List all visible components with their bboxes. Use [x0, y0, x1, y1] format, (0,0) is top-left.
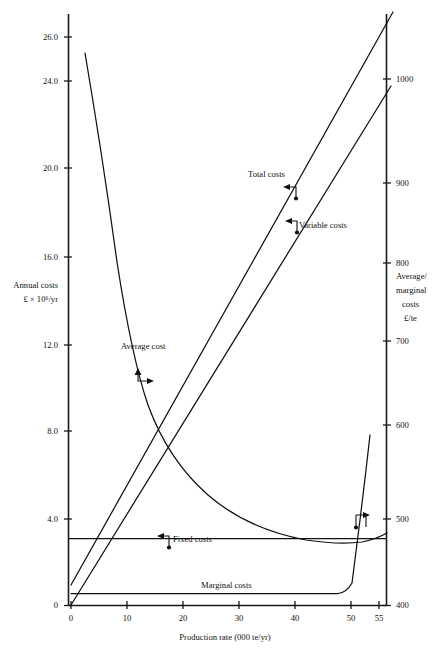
x-tick-label-55: 55 — [375, 613, 384, 623]
annotation-arrowhead-variable-costs — [285, 218, 292, 224]
annotation-endpoint-total-costs — [294, 196, 298, 200]
annotation-label-average-cost: Average cost — [121, 341, 166, 351]
series-line-total-costs — [71, 12, 393, 585]
series-line-average-cost — [85, 53, 387, 543]
x-axis-title: Production rate (000 te/yr) — [179, 632, 271, 642]
annotation-total-costs: Total costs — [248, 169, 298, 201]
annotation-endpoint-fixed-costs — [167, 545, 171, 549]
left-axis-title: Annual costs £ × 10⁶/yr — [13, 280, 58, 304]
right-axis-title-line4: £/te — [404, 313, 417, 323]
annotation-marginal-spike-pointer — [354, 512, 370, 530]
annotation-variable-costs: Variable costs — [285, 218, 348, 235]
right-tick-label-900: 900 — [396, 178, 409, 188]
annotation-label-marginal-costs: Marginal costs — [201, 580, 252, 590]
annotation-average-cost: Average cost — [121, 341, 166, 384]
bottom-axis-ticks: 0 10 20 30 40 50 55 — [69, 601, 383, 623]
x-tick-label-30: 30 — [235, 613, 244, 623]
right-tick-label-500: 500 — [396, 514, 409, 524]
right-axis-title-line1: Average/ — [396, 271, 427, 281]
series-line-marginal-costs — [71, 435, 370, 594]
annotation-label-total-costs: Total costs — [248, 169, 286, 179]
x-tick-label-0: 0 — [69, 613, 73, 623]
right-axis-title: Average/ marginal costs £/te — [396, 271, 427, 323]
left-tick-label-24: 24.0 — [43, 76, 58, 86]
left-tick-label-8: 8.0 — [47, 426, 58, 436]
axis-lines — [69, 14, 387, 606]
right-tick-label-700: 700 — [396, 336, 409, 346]
right-axis-title-line2: marginal — [396, 285, 427, 295]
left-tick-label-0: 0 — [54, 600, 58, 610]
left-tick-label-20: 20.0 — [43, 163, 58, 173]
annotation-fixed-costs: Fixed costs — [157, 533, 213, 550]
right-tick-label-1000: 1000 — [396, 74, 413, 84]
x-tick-label-10: 10 — [123, 613, 132, 623]
annotation-arrowhead-average-cost — [147, 378, 154, 384]
left-tick-label-26: 26.0 — [43, 32, 58, 42]
left-tick-label-12: 12.0 — [43, 340, 58, 350]
right-tick-label-400: 400 — [396, 600, 409, 610]
left-tick-label-16: 16.0 — [43, 252, 58, 262]
left-axis-ticks: 0 4.0 8.0 12.0 16.0 20.0 24.0 26.0 — [43, 32, 72, 610]
right-axis-title-line3: costs — [402, 299, 420, 309]
right-axis-ticks: 400 500 600 700 800 900 1000 — [383, 74, 413, 610]
left-axis-title-line2: £ × 10⁶/yr — [23, 294, 58, 304]
left-tick-label-4: 4.0 — [47, 514, 58, 524]
right-tick-label-800: 800 — [396, 258, 409, 268]
cost-curves-figure: 0 4.0 8.0 12.0 16.0 20.0 24.0 26.0 Annua… — [0, 0, 437, 652]
annotation-arrowhead-total-costs — [283, 184, 290, 190]
right-tick-label-600: 600 — [396, 420, 409, 430]
series-line-variable-costs — [71, 86, 391, 605]
left-axis-title-line1: Annual costs — [13, 280, 58, 290]
x-tick-label-20: 20 — [179, 613, 188, 623]
x-tick-label-40: 40 — [291, 613, 300, 623]
annotation-label-fixed-costs: Fixed costs — [173, 534, 213, 544]
annotation-label-variable-costs: Variable costs — [299, 220, 348, 230]
annotation-marginal-costs: Marginal costs — [201, 580, 252, 590]
annotation-arrowhead2-average-cost — [135, 368, 142, 375]
annotation-endpoint-variable-costs — [295, 230, 299, 234]
x-tick-label-50: 50 — [347, 613, 356, 623]
chart-svg: 0 4.0 8.0 12.0 16.0 20.0 24.0 26.0 Annua… — [0, 0, 437, 652]
